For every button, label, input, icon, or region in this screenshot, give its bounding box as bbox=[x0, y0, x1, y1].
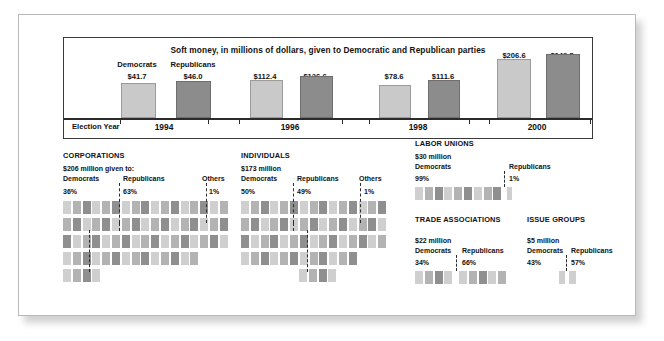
waffle-cell bbox=[299, 269, 307, 282]
waffle-cell bbox=[251, 252, 259, 265]
year-label-2000: 2000 bbox=[514, 122, 560, 132]
waffle-cell bbox=[190, 235, 198, 248]
waffle-cell bbox=[190, 252, 198, 265]
waffle-cell bbox=[280, 201, 288, 214]
individuals-divider-dem-rep-bottom bbox=[307, 230, 308, 272]
bar-1994-rep-wrap bbox=[176, 38, 209, 118]
waffle-cell bbox=[220, 201, 228, 214]
waffle-cell bbox=[112, 252, 120, 265]
waffle-cell bbox=[378, 218, 386, 231]
bar-1994-rep bbox=[176, 81, 211, 118]
bar-1998-dem bbox=[379, 85, 411, 118]
waffle-cell bbox=[474, 187, 482, 200]
waffle-cell bbox=[220, 218, 228, 231]
waffle-cell bbox=[290, 235, 298, 248]
waffle-cell bbox=[241, 201, 249, 214]
corporations-rep-label: Republicans bbox=[123, 175, 165, 182]
waffle-cell bbox=[141, 201, 149, 214]
individuals-rep-pct: 49% bbox=[297, 188, 311, 195]
waffle-cell bbox=[349, 252, 357, 265]
x-axis bbox=[64, 118, 592, 120]
trade-associations-dem-label: Democrats bbox=[415, 247, 451, 254]
waffle-cell bbox=[368, 218, 376, 231]
waffle-cell bbox=[559, 271, 565, 284]
election-year-label: Election Year bbox=[72, 122, 120, 131]
waffle-cell bbox=[161, 252, 169, 265]
waffle-cell bbox=[310, 252, 318, 265]
individuals-divider-rep-oth bbox=[360, 183, 361, 223]
bar-1998-rep-wrap bbox=[428, 38, 458, 118]
corporations-divider-step bbox=[119, 223, 120, 231]
bar-2000-rep-wrap bbox=[546, 38, 578, 118]
waffle-cell bbox=[171, 235, 179, 248]
individuals-rep-label: Republicans bbox=[297, 175, 339, 182]
waffle-cell bbox=[498, 271, 506, 284]
waffle-cell bbox=[210, 218, 218, 231]
waffle-cell bbox=[241, 218, 249, 231]
waffle-cell bbox=[310, 201, 318, 214]
bar-1996-rep bbox=[300, 76, 333, 118]
waffle-cell bbox=[290, 201, 298, 214]
bar-1996-rep-wrap bbox=[300, 38, 331, 118]
corporations-dem-pct: 36% bbox=[63, 188, 77, 195]
waffle-cell bbox=[378, 235, 386, 248]
bar-1998-dem-wrap bbox=[379, 38, 409, 118]
waffle-cell bbox=[210, 201, 218, 214]
section-title-labor-unions: LABOR UNIONS bbox=[415, 139, 474, 148]
waffle-cell bbox=[425, 187, 433, 200]
waffle-cell bbox=[349, 201, 357, 214]
labor-unions-rep-pct: 1% bbox=[509, 175, 519, 182]
waffle-cell bbox=[261, 235, 269, 248]
waffle-cell bbox=[132, 201, 140, 214]
waffle-cell bbox=[102, 252, 110, 265]
waffle-cell bbox=[569, 271, 576, 284]
waffle-cell bbox=[280, 235, 288, 248]
waffle-cell bbox=[241, 252, 249, 265]
waffle-cell bbox=[190, 201, 198, 214]
waffle-cell bbox=[83, 201, 91, 214]
waffle-cell bbox=[210, 235, 218, 248]
waffle-cell bbox=[63, 269, 71, 282]
waffle-cell bbox=[469, 271, 477, 284]
waffle-cell bbox=[151, 218, 159, 231]
waffle-cell bbox=[151, 252, 159, 265]
waffle-cell bbox=[339, 235, 347, 248]
waffle-cell bbox=[507, 187, 512, 200]
chart-frame: Soft money, in millions of dollars, give… bbox=[18, 14, 636, 316]
waffle-cell bbox=[261, 218, 269, 231]
bar-2000-dem-wrap bbox=[497, 38, 529, 118]
waffle-cell bbox=[151, 235, 159, 248]
trade-associations-dem-pct: 34% bbox=[415, 259, 429, 266]
waffle-cell bbox=[378, 201, 386, 214]
trade-associations-rep-pct: 66% bbox=[462, 259, 476, 266]
individuals-oth-pct: 1% bbox=[364, 188, 374, 195]
waffle-cell bbox=[151, 201, 159, 214]
waffle-cell bbox=[63, 218, 71, 231]
waffle-cell bbox=[484, 187, 492, 200]
waffle-cell bbox=[349, 235, 357, 248]
section-title-corporations: CORPORATIONS bbox=[63, 151, 125, 160]
waffle-cell bbox=[161, 235, 169, 248]
waffle-cell bbox=[63, 252, 71, 265]
issue-groups-rep-label: Republicans bbox=[571, 247, 613, 254]
trade-associations-rep-label: Republicans bbox=[462, 247, 504, 254]
waffle-cell bbox=[161, 218, 169, 231]
year-label-1996: 1996 bbox=[267, 122, 313, 132]
waffle-cell bbox=[181, 252, 189, 265]
waffle-cell bbox=[368, 201, 376, 214]
soft-money-bar-chart: Soft money, in millions of dollars, give… bbox=[63, 37, 593, 139]
corporations-dem-label: Democrats bbox=[63, 175, 99, 182]
waffle-cell bbox=[132, 218, 140, 231]
waffle-cell bbox=[171, 218, 179, 231]
labor-unions-dem-pct: 99% bbox=[415, 175, 429, 182]
issue-groups-divider bbox=[566, 255, 567, 271]
chart-page: Soft money, in millions of dollars, give… bbox=[0, 0, 664, 341]
bar-1996-dem bbox=[250, 80, 283, 118]
waffle-cell bbox=[171, 201, 179, 214]
waffle-cell bbox=[132, 235, 140, 248]
waffle-cell bbox=[63, 235, 71, 248]
waffle-cell bbox=[319, 235, 327, 248]
waffle-cell bbox=[459, 271, 467, 284]
trade-associations-amount: $22 million bbox=[415, 237, 451, 244]
waffle-cell bbox=[190, 218, 198, 231]
